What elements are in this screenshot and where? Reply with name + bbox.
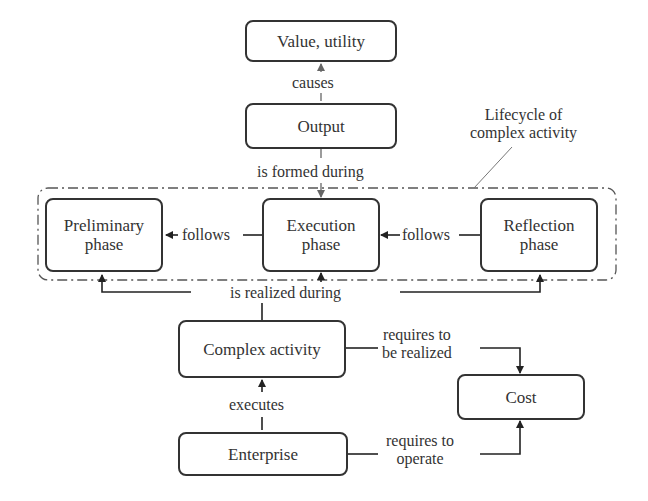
edge-label-requires-to-operate: requires to operate [386, 432, 454, 468]
node-preliminary-phase: Preliminary phase [45, 198, 163, 272]
diagram-canvas: Value, utility Output Preliminary phase … [0, 0, 648, 501]
node-value-utility: Value, utility [245, 20, 397, 62]
edge-label-is-formed-during: is formed during [257, 163, 364, 181]
edge-label-executes: executes [229, 396, 284, 414]
node-execution-phase: Execution phase [262, 198, 380, 272]
node-reflection-phase: Reflection phase [480, 198, 598, 272]
edge-label-is-realized-during: is realized during [230, 284, 341, 302]
node-cost: Cost [457, 374, 585, 420]
node-complex-activity: Complex activity [178, 320, 346, 378]
edge-label-follows-right: follows [402, 226, 450, 244]
node-output: Output [245, 103, 397, 149]
node-enterprise: Enterprise [178, 432, 348, 476]
group-label-lifecycle: Lifecycle of complex activity [470, 106, 577, 142]
edge-label-requires-to-be-realized: requires to be realized [382, 326, 452, 362]
edge-label-follows-left: follows [182, 226, 230, 244]
edge-label-causes: causes [292, 74, 334, 92]
